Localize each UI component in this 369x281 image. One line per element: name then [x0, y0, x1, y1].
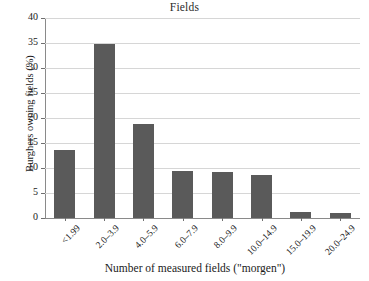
bar — [54, 150, 75, 218]
x-tick-mark — [222, 218, 223, 221]
gridline — [45, 143, 360, 144]
bar — [94, 44, 115, 219]
y-tick-mark — [41, 68, 45, 69]
y-tick-label: 35 — [4, 36, 38, 47]
y-tick-mark — [41, 193, 45, 194]
y-tick-mark — [41, 218, 45, 219]
x-tick-mark — [104, 218, 105, 221]
y-tick-label: 40 — [4, 11, 38, 22]
y-tick-mark — [41, 18, 45, 19]
y-tick-mark — [41, 93, 45, 94]
y-tick-label: 30 — [4, 61, 38, 72]
gridline — [45, 118, 360, 119]
gridline — [45, 18, 360, 19]
x-axis-title: Number of measured fields ("morgen") — [30, 262, 360, 274]
y-tick-label: 20 — [4, 111, 38, 122]
gridline — [45, 68, 360, 69]
y-tick-mark — [41, 143, 45, 144]
bar — [212, 172, 233, 218]
gridline — [45, 193, 360, 194]
y-tick-label: 15 — [4, 136, 38, 147]
axis-baseline — [45, 218, 360, 219]
y-tick-mark — [41, 168, 45, 169]
gridline — [45, 168, 360, 169]
plot-area: 0510152025303540 <1.992.0–3.94.0–5.96.0–… — [45, 18, 360, 218]
x-tick-mark — [183, 218, 184, 221]
y-tick-mark — [41, 118, 45, 119]
y-tick-mark — [41, 43, 45, 44]
gridline — [45, 93, 360, 94]
x-tick-mark — [143, 218, 144, 221]
bar — [172, 171, 193, 218]
y-tick-label: 5 — [4, 186, 38, 197]
y-tick-label: 0 — [4, 211, 38, 222]
chart-figure: Fields Burghers owning fields (%) 051015… — [0, 0, 369, 281]
y-tick-label: 10 — [4, 161, 38, 172]
x-tick-mark — [340, 218, 341, 221]
x-tick-mark — [65, 218, 66, 221]
bar — [251, 175, 272, 219]
bar — [133, 124, 154, 218]
gridline — [45, 43, 360, 44]
x-tick-mark — [262, 218, 263, 221]
x-tick-mark — [301, 218, 302, 221]
chart-title: Fields — [0, 1, 369, 13]
y-tick-label: 25 — [4, 86, 38, 97]
